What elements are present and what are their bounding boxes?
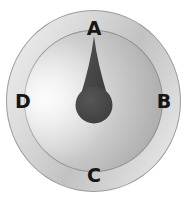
gauge-dial-figure: A B C D [0,0,188,201]
dial-label-b: B [155,92,173,111]
dial-label-a: A [0,19,188,38]
dial-label-c: C [0,166,188,185]
inner-dial-face [24,30,163,172]
dial-label-d: D [14,92,32,111]
